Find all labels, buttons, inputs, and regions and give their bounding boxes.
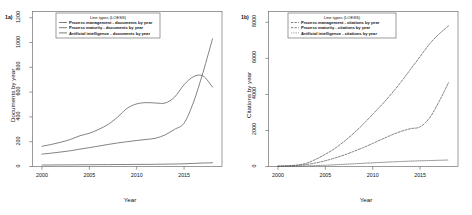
series-line-3 [278, 160, 449, 166]
series-line-2 [42, 39, 213, 154]
x-tick-label: 2005 [77, 172, 101, 178]
y-tick-label: 400 [15, 107, 21, 125]
y-tick-label: 0 [15, 157, 21, 175]
y-tick-label: 1200 [15, 8, 21, 26]
x-tick-label: 2000 [30, 172, 54, 178]
y-tick-label: 8000 [251, 12, 257, 30]
series-line-3 [42, 163, 213, 165]
y-tick-label: 2000 [251, 120, 257, 138]
y-tick-label: 6000 [251, 48, 257, 66]
legend-entry-3: Artificial intelligence - documents by y… [69, 31, 150, 36]
y-tick-label: 600 [15, 82, 21, 100]
y-tick-label: 4000 [251, 84, 257, 102]
y-tick-label: 0 [251, 157, 257, 175]
panel-1a: 1a) Documents by year Year 0200400600800… [0, 0, 236, 215]
panel-1b: 1b) Citations by year Year 0200040006000… [236, 0, 472, 215]
legend-entry-3: Artificial intelligence - citations by y… [301, 31, 377, 36]
y-tick-label: 1000 [15, 33, 21, 51]
x-tick-label: 2010 [361, 172, 385, 178]
x-tick-label: 2000 [266, 172, 290, 178]
legend-title-1a: Line types (LOESS) [56, 15, 160, 20]
legend-title-1b: Line types (LOESS) [288, 15, 396, 20]
y-tick-label: 800 [15, 57, 21, 75]
x-tick-label: 2010 [125, 172, 149, 178]
series-line-1 [42, 75, 213, 146]
y-tick-label: 200 [15, 132, 21, 150]
series-line-1 [278, 26, 449, 166]
x-tick-label: 2015 [408, 172, 432, 178]
x-tick-label: 2015 [172, 172, 196, 178]
x-tick-label: 2005 [313, 172, 337, 178]
figure-container: 1a) Documents by year Year 0200400600800… [0, 0, 472, 215]
